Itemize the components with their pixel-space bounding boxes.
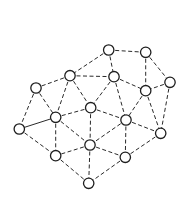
- node-B: [141, 47, 151, 57]
- edge-E-L: [161, 82, 170, 133]
- edge-I-M: [56, 117, 90, 145]
- edge-D-J: [114, 77, 126, 120]
- node-D: [109, 72, 119, 82]
- node-M: [85, 140, 95, 150]
- edge-C-I: [56, 76, 70, 118]
- node-F: [31, 83, 41, 93]
- node-O: [120, 152, 130, 162]
- node-P: [84, 178, 94, 188]
- edge-G-L: [146, 91, 161, 134]
- edge-F-K: [19, 88, 36, 129]
- node-G: [141, 86, 151, 96]
- node-E: [165, 77, 175, 87]
- node-C: [65, 71, 75, 81]
- node-L: [156, 128, 166, 138]
- node-A: [104, 45, 114, 55]
- edge-C-D: [70, 76, 114, 77]
- network-graph: [0, 0, 188, 198]
- edge-J-M: [90, 120, 126, 145]
- edge-A-C: [70, 50, 109, 76]
- node-H: [86, 103, 96, 113]
- node-layer: [14, 45, 175, 189]
- edge-L-O: [125, 133, 160, 157]
- edge-O-P: [89, 157, 126, 183]
- edge-K-N: [19, 129, 55, 156]
- node-K: [14, 124, 24, 134]
- node-J: [121, 115, 131, 125]
- edge-N-P: [56, 156, 89, 184]
- edge-layer: [19, 50, 170, 183]
- node-I: [51, 112, 61, 122]
- node-N: [51, 151, 61, 161]
